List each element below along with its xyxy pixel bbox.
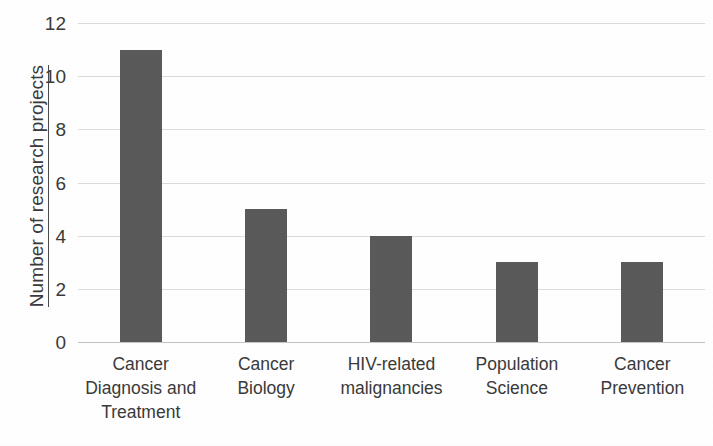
bar[interactable] bbox=[245, 209, 287, 342]
x-axis-category-labels: CancerDiagnosis andTreatmentCancerBiolog… bbox=[78, 352, 705, 442]
category-label-line: Biology bbox=[203, 376, 328, 400]
bar[interactable] bbox=[496, 262, 538, 342]
bar-slot bbox=[78, 23, 203, 342]
bars bbox=[78, 23, 705, 342]
category-label-line: HIV-related bbox=[329, 352, 454, 376]
y-tick-label: 2 bbox=[6, 279, 66, 298]
category-label: CancerPrevention bbox=[580, 352, 705, 400]
category-label: HIV-relatedmalignancies bbox=[329, 352, 454, 400]
y-tick-label: 6 bbox=[6, 173, 66, 192]
bar-chart: Number of research projects 024681012 Ca… bbox=[0, 0, 713, 446]
category-label-line: Prevention bbox=[580, 376, 705, 400]
plot-area bbox=[78, 23, 705, 342]
category-label-line: Cancer bbox=[78, 352, 203, 376]
bar-slot bbox=[454, 23, 579, 342]
y-tick-label: 10 bbox=[6, 67, 66, 86]
y-axis-tick-labels: 024681012 bbox=[0, 23, 66, 342]
category-label-line: Science bbox=[454, 376, 579, 400]
category-label-line: Cancer bbox=[203, 352, 328, 376]
y-tick-label: 0 bbox=[6, 333, 66, 352]
bar-slot bbox=[203, 23, 328, 342]
bar[interactable] bbox=[370, 236, 412, 342]
category-label: PopulationScience bbox=[454, 352, 579, 400]
bar-slot bbox=[329, 23, 454, 342]
category-label-line: Cancer bbox=[580, 352, 705, 376]
category-label-line: malignancies bbox=[329, 376, 454, 400]
category-label-line: Treatment bbox=[78, 400, 203, 424]
category-label: CancerBiology bbox=[203, 352, 328, 400]
category-label-line: Diagnosis and bbox=[78, 376, 203, 400]
category-label: CancerDiagnosis andTreatment bbox=[78, 352, 203, 424]
y-tick-label: 12 bbox=[6, 14, 66, 33]
bar-slot bbox=[580, 23, 705, 342]
y-tick-label: 8 bbox=[6, 120, 66, 139]
category-label-line: Population bbox=[454, 352, 579, 376]
bar[interactable] bbox=[120, 50, 162, 342]
y-tick-label: 4 bbox=[6, 226, 66, 245]
bar[interactable] bbox=[621, 262, 663, 342]
gridline bbox=[78, 342, 705, 343]
